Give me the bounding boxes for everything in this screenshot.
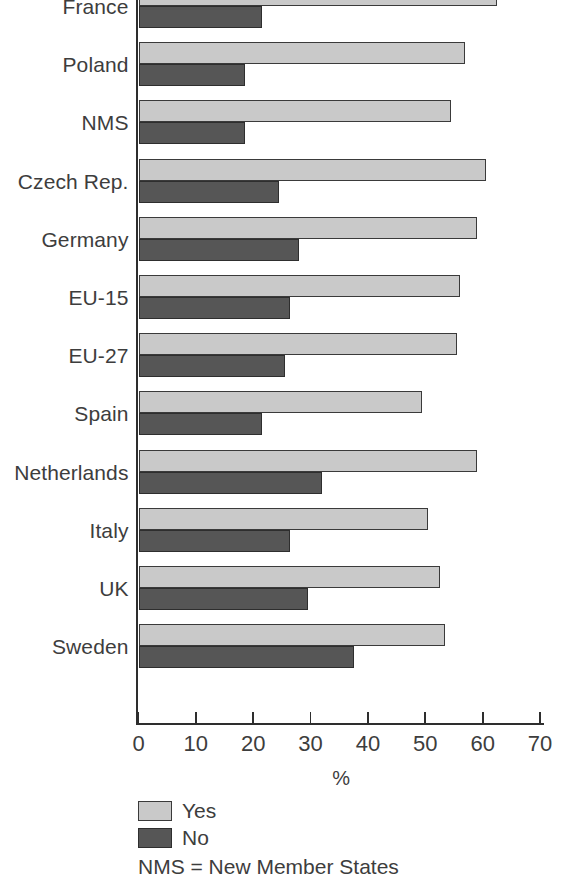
category-label-nms: NMS	[1, 112, 129, 133]
bar-czech-rep--no	[139, 181, 280, 203]
category-label-italy: Italy	[1, 520, 129, 541]
bar-nms-yes	[139, 100, 452, 122]
bar-poland-no	[139, 64, 245, 86]
x-tick-label-50: 50	[413, 733, 437, 755]
bar-czech-rep--yes	[139, 159, 486, 181]
x-tick-label-30: 30	[298, 733, 322, 755]
legend-footnote: NMS = New Member States	[138, 856, 538, 878]
plot-area: FrancePolandNMSCzech Rep.GermanyEU-15EU-…	[0, 0, 562, 730]
bar-eu-27-yes	[139, 333, 457, 355]
x-axis-title: %	[332, 767, 350, 790]
category-label-poland: Poland	[1, 54, 129, 75]
category-label-netherlands: Netherlands	[1, 462, 129, 483]
bar-sweden-no	[139, 646, 354, 668]
bar-uk-no	[139, 588, 308, 610]
x-tick-30	[310, 712, 312, 723]
bar-chart: FrancePolandNMSCzech Rep.GermanyEU-15EU-…	[0, 0, 562, 887]
bar-italy-yes	[139, 508, 429, 530]
x-tick-label-10: 10	[184, 733, 208, 755]
legend-item-no: No	[138, 825, 538, 850]
bar-italy-no	[139, 530, 291, 552]
legend-label-yes: Yes	[182, 800, 216, 821]
bar-netherlands-yes	[139, 450, 477, 472]
category-label-sweden: Sweden	[1, 636, 129, 657]
bar-nms-no	[139, 122, 245, 144]
bar-eu-27-no	[139, 355, 285, 377]
category-label-czech-rep-: Czech Rep.	[1, 171, 129, 192]
x-tick-label-40: 40	[356, 733, 380, 755]
bar-sweden-yes	[139, 624, 446, 646]
x-tick-50	[424, 712, 426, 723]
bar-eu-15-no	[139, 297, 291, 319]
category-label-germany: Germany	[1, 229, 129, 250]
x-tick-70	[539, 712, 541, 723]
x-tick-10	[195, 712, 197, 723]
bar-poland-yes	[139, 42, 466, 64]
category-label-uk: UK	[1, 578, 129, 599]
x-tick-label-0: 0	[132, 733, 144, 755]
bar-spain-no	[139, 413, 262, 435]
x-tick-label-70: 70	[528, 733, 552, 755]
legend-item-yes: Yes	[138, 798, 538, 823]
legend-swatch-no	[138, 828, 172, 848]
bar-france-no	[139, 6, 262, 28]
category-label-spain: Spain	[1, 403, 129, 424]
x-tick-label-60: 60	[470, 733, 494, 755]
bar-germany-no	[139, 239, 300, 261]
legend-label-no: No	[182, 827, 209, 848]
x-axis-line	[136, 723, 544, 725]
bar-germany-yes	[139, 217, 477, 239]
x-tick-60	[482, 712, 484, 723]
chart-legend: Yes No NMS = New Member States	[138, 798, 538, 878]
category-label-eu-15: EU-15	[1, 287, 129, 308]
x-tick-20	[252, 712, 254, 723]
x-tick-0	[138, 712, 140, 723]
x-tick-label-20: 20	[241, 733, 265, 755]
x-tick-40	[367, 712, 369, 723]
category-label-eu-27: EU-27	[1, 345, 129, 366]
category-label-france: France	[1, 0, 129, 17]
bar-spain-yes	[139, 391, 423, 413]
bar-eu-15-yes	[139, 275, 460, 297]
legend-swatch-yes	[138, 801, 172, 821]
bar-uk-yes	[139, 566, 440, 588]
bar-netherlands-no	[139, 472, 323, 494]
